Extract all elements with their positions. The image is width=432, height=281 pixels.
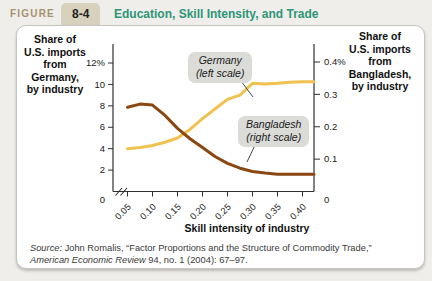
figure-kicker: FIGURE — [10, 8, 55, 19]
right-axis-label-line: Share of — [341, 30, 419, 43]
left-axis-label-line: Germany, — [18, 71, 92, 84]
left-axis-label-line: U.S. imports — [18, 46, 92, 59]
callout-bangladesh-scale: (right scale) — [246, 131, 301, 144]
right-axis-label-line: from — [341, 55, 419, 68]
figure-number-tab: 8-4 — [61, 3, 100, 26]
callout-germany-scale: (left scale) — [196, 67, 244, 80]
left-axis-label-line: Share of — [18, 33, 92, 46]
source-note: Source: John Romalis, “Factor Proportion… — [30, 243, 402, 266]
figure-title: Education, Skill Intensity, and Trade — [114, 7, 319, 21]
right-axis-label: Share of U.S. imports from Bangladesh, b… — [341, 30, 419, 93]
left-axis-label-line: from — [18, 58, 92, 71]
source-journal: American Economic Review — [30, 255, 146, 265]
source-prefix: Source: — [30, 243, 62, 253]
callout-germany-name: Germany — [196, 54, 244, 67]
callout-bangladesh: Bangladesh (right scale) — [238, 116, 309, 147]
right-axis-label-line: by industry — [341, 80, 419, 93]
source-citation: 94, no. 1 (2004): 67–97. — [146, 255, 248, 265]
source-text: John Romalis, “Factor Proportions and th… — [62, 243, 372, 253]
right-axis-label-line: U.S. imports — [341, 43, 419, 56]
source-line-1: Source: John Romalis, “Factor Proportion… — [30, 243, 402, 255]
right-axis-label-line: Bangladesh, — [341, 68, 419, 81]
left-axis-label-line: by industry — [18, 83, 92, 96]
page: FIGURE 8-4 Education, Skill Intensity, a… — [0, 0, 432, 281]
callout-bangladesh-name: Bangladesh — [246, 118, 301, 131]
left-axis-label: Share of U.S. imports from Germany, by i… — [18, 33, 92, 96]
source-line-2: American Economic Review 94, no. 1 (2004… — [30, 255, 402, 267]
callout-germany: Germany (left scale) — [188, 52, 252, 83]
x-axis-title: Skill intensity of industry — [152, 222, 342, 234]
